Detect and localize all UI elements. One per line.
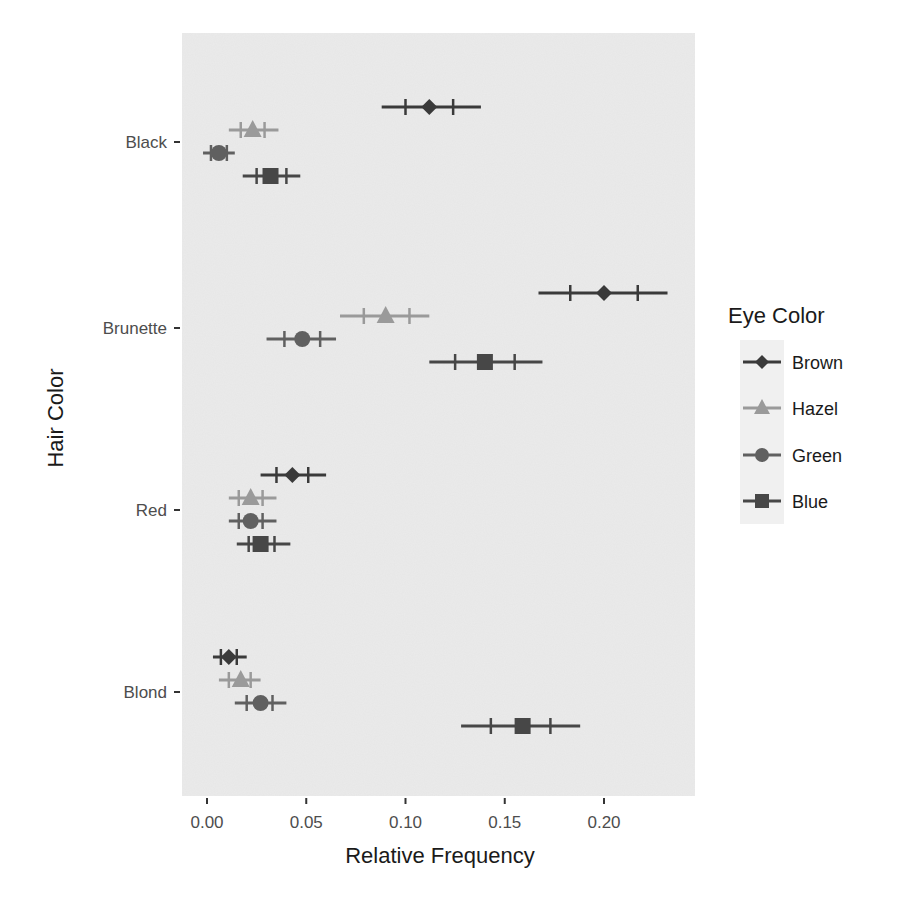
plot-panel	[182, 33, 695, 796]
legend-title: Eye Color	[728, 303, 825, 328]
circle-icon	[755, 448, 769, 462]
x-axis-title: Relative Frequency	[345, 843, 535, 868]
legend-label: Blue	[792, 492, 828, 512]
x-tick-label: 0.15	[488, 813, 521, 832]
x-tick-label: 0.10	[389, 813, 422, 832]
y-axis: BlackBrunetteRedBlond	[103, 133, 180, 702]
x-tick-label: 0.20	[587, 813, 620, 832]
x-tick-label: 0.05	[290, 813, 323, 832]
square-icon	[755, 494, 769, 508]
y-tick-label-black: Black	[125, 133, 167, 152]
y-axis-title: Hair Color	[43, 368, 68, 467]
x-axis: 0.000.050.100.150.20	[190, 798, 620, 832]
x-tick-label: 0.00	[190, 813, 223, 832]
legend-label: Green	[792, 446, 842, 466]
y-tick-label-blond: Blond	[124, 683, 167, 702]
dot-plot-chart: 0.000.050.100.150.20 BlackBrunetteRedBlo…	[0, 0, 900, 910]
legend-label: Hazel	[792, 399, 838, 419]
y-tick-label-red: Red	[136, 501, 167, 520]
y-tick-label-brunette: Brunette	[103, 319, 167, 338]
legend: Eye Color BrownHazelGreenBlue	[728, 303, 843, 524]
legend-label: Brown	[792, 353, 843, 373]
